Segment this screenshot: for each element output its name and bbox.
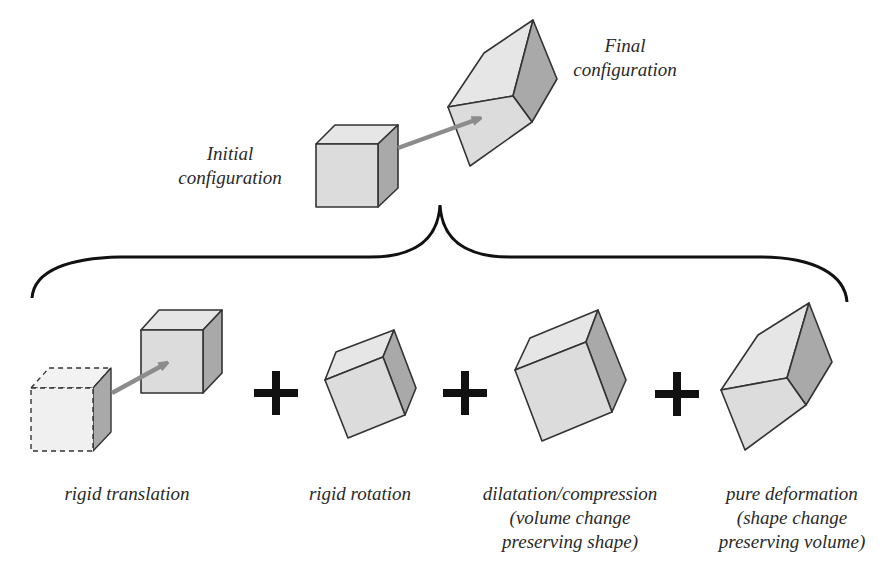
label-line: Initial [178, 142, 281, 166]
final-configuration-label: Final configuration [573, 34, 676, 82]
final-shape [448, 20, 557, 166]
label-line: pure deformation [719, 482, 866, 506]
label-line: dilatation/compression [483, 482, 658, 506]
label-line: configuration [178, 166, 281, 190]
dilatation-label: dilatation/compression (volume change pr… [483, 482, 658, 554]
label-line: preserving volume) [719, 530, 866, 554]
pure-deformation-label: pure deformation (shape change preservin… [719, 482, 866, 554]
translation-cube [141, 310, 222, 393]
label-line: (volume change [483, 506, 658, 530]
initial-cube [316, 125, 398, 207]
deformation-shape [721, 303, 832, 450]
plus-icon [254, 371, 298, 415]
rigid-rotation-label: rigid rotation [309, 482, 411, 506]
label-line: configuration [573, 58, 676, 82]
label-line: (shape change [719, 506, 866, 530]
rigid-translation-label: rigid translation [64, 482, 189, 506]
label-line: rigid translation [64, 482, 189, 506]
label-line: preserving shape) [483, 530, 658, 554]
label-line: rigid rotation [309, 482, 411, 506]
label-line: Final [573, 34, 676, 58]
initial-configuration-label: Initial configuration [178, 142, 281, 190]
rotation-cube [325, 330, 416, 438]
plus-icon [443, 371, 487, 415]
translation-ghost-cube [31, 368, 111, 451]
curly-brace [32, 205, 847, 302]
dilatation-cube [515, 310, 626, 441]
plus-icon [655, 372, 699, 416]
